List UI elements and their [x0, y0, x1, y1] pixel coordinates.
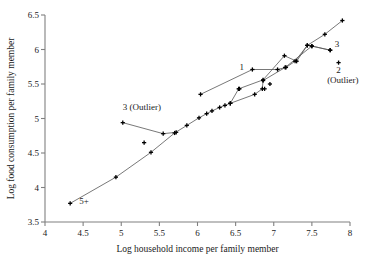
x-tick-label: 5.5: [154, 228, 166, 238]
data-point: [263, 87, 267, 91]
x-tick-label: 7.5: [306, 228, 318, 238]
data-point: [261, 78, 265, 82]
x-tick-label: 6.5: [230, 228, 242, 238]
data-point: [205, 112, 209, 116]
y-tick-label: 4: [35, 183, 40, 193]
x-tick-label: 6: [195, 228, 200, 238]
data-point: [218, 105, 222, 109]
y-tick-label: 4.5: [28, 148, 40, 158]
data-point: [228, 101, 232, 105]
scatter-plot-canvas: 44.555.566.577.583.544.555.566.5Log hous…: [0, 0, 365, 269]
annotation-label: 5+: [79, 196, 89, 206]
data-point: [185, 123, 189, 127]
data-point: [198, 92, 202, 96]
y-tick-label: 5.5: [28, 79, 40, 89]
annotation-label: (Outlier): [327, 75, 359, 85]
x-tick-label: 4.5: [78, 228, 90, 238]
x-tick-label: 7: [272, 228, 277, 238]
data-point: [121, 121, 125, 125]
y-tick-label: 6.5: [28, 10, 40, 20]
data-point: [250, 67, 254, 71]
y-axis-title: Log food consumption per family member: [6, 37, 16, 200]
y-tick-label: 6: [35, 45, 40, 55]
series-line: [70, 45, 330, 203]
series-line: [201, 21, 343, 95]
data-point: [197, 116, 201, 120]
data-point: [210, 109, 214, 113]
annotation-label: 3 (Outlier): [123, 102, 161, 112]
annotation-label: 2: [336, 65, 341, 75]
annotation-label: 1: [239, 62, 244, 72]
x-tick-label: 8: [348, 228, 353, 238]
annotation-label: 3: [335, 39, 340, 49]
series-line: [123, 123, 176, 134]
x-axis-title: Log household income per family member: [116, 244, 279, 254]
data-point: [68, 201, 72, 205]
data-point: [161, 132, 165, 136]
y-tick-label: 3.5: [28, 217, 40, 227]
x-tick-label: 4: [43, 228, 48, 238]
chart-figure: 44.555.566.577.583.544.555.566.5Log hous…: [0, 0, 365, 269]
data-point: [223, 103, 227, 107]
x-tick-label: 5: [119, 228, 124, 238]
y-tick-label: 5: [35, 114, 40, 124]
data-point: [268, 82, 272, 86]
data-point: [328, 48, 332, 52]
data-point: [142, 141, 146, 145]
series-line: [230, 46, 330, 103]
